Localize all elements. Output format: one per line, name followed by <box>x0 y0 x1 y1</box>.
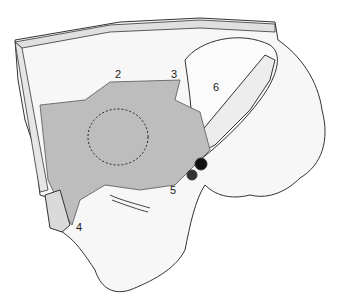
vessel-lumen-2 <box>187 170 197 180</box>
anatomical-figure: 2 3 4 5 6 <box>0 0 345 305</box>
label-3: 3 <box>171 69 177 80</box>
pelvis-illustration <box>0 0 345 305</box>
label-6: 6 <box>213 82 219 93</box>
vessel-lumen <box>195 158 207 170</box>
label-4: 4 <box>76 222 82 233</box>
label-2: 2 <box>115 69 121 80</box>
label-5: 5 <box>170 185 176 196</box>
